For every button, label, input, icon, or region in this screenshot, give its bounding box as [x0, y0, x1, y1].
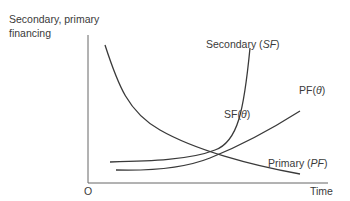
secondary-leader — [228, 50, 236, 78]
primary-pf-label: Primary (PF) — [268, 157, 328, 169]
diagram-canvas — [0, 0, 350, 201]
primary-pf-curve — [105, 45, 300, 174]
x-axis-label: Time — [310, 185, 333, 197]
pf-theta-label: PF(θ) — [299, 84, 325, 96]
sf-theta-label: SF(θ) — [224, 108, 250, 120]
origin-label: O — [84, 185, 92, 197]
secondary-sf-label: Secondary (SF) — [206, 38, 280, 50]
